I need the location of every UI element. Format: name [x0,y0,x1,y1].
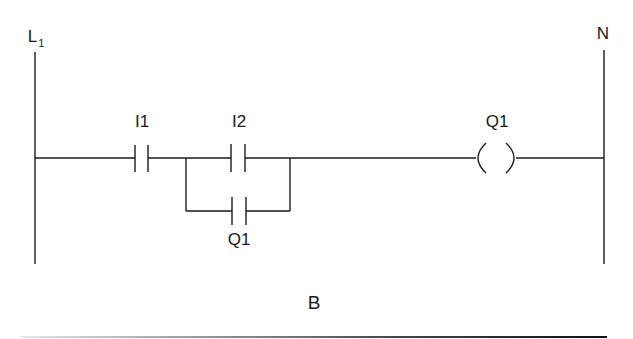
contact-q1-branch-label: Q1 [228,231,251,248]
left-rail-label: L1 [28,28,45,45]
coil-q1-label: Q1 [486,113,509,130]
bottom-divider [20,336,607,338]
coil-q1 [478,143,514,173]
contact-i2 [231,144,245,172]
left-rail-subscript: 1 [38,37,44,49]
contact-i1-label: I1 [135,113,149,130]
contact-q1-branch [232,197,246,225]
parallel-branch [186,158,290,211]
figure-caption: B [308,293,321,312]
contact-i2-label: I2 [232,113,246,130]
contact-i1 [135,145,148,172]
right-rail-label: N [597,25,609,42]
ladder-diagram [0,0,633,339]
